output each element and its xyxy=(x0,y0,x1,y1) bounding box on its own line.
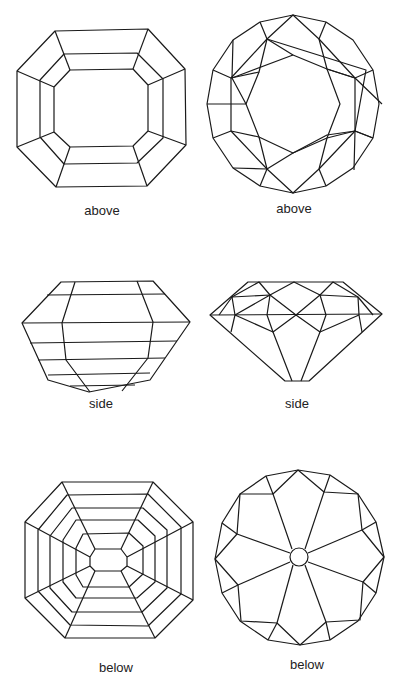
round-cut-side-view xyxy=(210,282,382,381)
emerald-below-label: below xyxy=(66,660,166,675)
emerald-cut-bottom-view xyxy=(25,482,193,638)
round-side-label: side xyxy=(247,396,347,411)
emerald-above-label: above xyxy=(52,203,152,218)
gem-cut-diagram xyxy=(0,0,405,691)
round-cut-bottom-view xyxy=(215,470,384,645)
round-cut-top-view xyxy=(207,15,382,193)
emerald-cut-side-view xyxy=(22,281,190,392)
round-below-label: below xyxy=(257,657,357,672)
emerald-side-label: side xyxy=(51,396,151,411)
round-above-label: above xyxy=(244,201,344,216)
emerald-cut-top-view xyxy=(17,29,186,187)
